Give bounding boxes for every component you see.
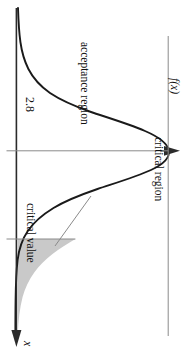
normal-distribution-curve [15,8,169,334]
x-axis-arrowhead [11,330,21,347]
critical-region-label: critical region [153,137,165,201]
statistics-figure: critical region acceptance region critic… [0,0,186,357]
plot-rotation-wrapper: critical region acceptance region critic… [0,0,186,357]
mean-tick-label: 2.8 [24,97,36,112]
critical-value-label: critical value [25,203,37,263]
x-axis-label: x [22,341,34,346]
y-axis-label: f(x) [169,78,181,94]
acceptance-region-label: acceptance region [79,42,91,125]
